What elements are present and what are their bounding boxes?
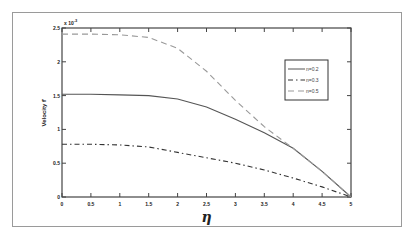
legend-label: n=0.3: [306, 77, 319, 83]
x-tick-label: 2.5: [203, 201, 210, 207]
velocity-chart: 00.511.522.533.544.5500.511.522.5x 10-3V…: [0, 0, 412, 235]
series-line-n-0-3: [62, 144, 351, 197]
x-axis-label: η: [201, 209, 211, 225]
y-tick-label: 1: [57, 126, 60, 132]
y-tick-label: 0: [57, 194, 60, 200]
y-tick-label: 2: [57, 59, 60, 65]
legend-label: n=0.2: [306, 66, 319, 72]
x-tick-label: 4: [292, 201, 295, 207]
x-tick-label: 3.5: [261, 201, 268, 207]
plot-area: [62, 28, 351, 197]
x-tick-label: 1: [118, 201, 121, 207]
x-tick-label: 0.5: [87, 201, 94, 207]
series-line-n-0-5: [62, 34, 351, 197]
x-tick-label: 2: [176, 201, 179, 207]
x-tick-label: 5: [350, 201, 353, 207]
x-tick-label: 0: [61, 201, 64, 207]
y-multiplier-label: x 10-3: [64, 18, 78, 26]
y-tick-label: 2.5: [53, 25, 60, 31]
y-axis-label: Velocity f': [41, 98, 47, 126]
x-tick-label: 4.5: [319, 201, 326, 207]
x-tick-label: 1.5: [145, 201, 152, 207]
y-tick-label: 1.5: [53, 93, 60, 99]
y-tick-label: 0.5: [53, 160, 60, 166]
series-line-n-0-2: [62, 94, 351, 197]
x-tick-label: 3: [234, 201, 237, 207]
legend-label: n=0.5: [306, 88, 319, 94]
